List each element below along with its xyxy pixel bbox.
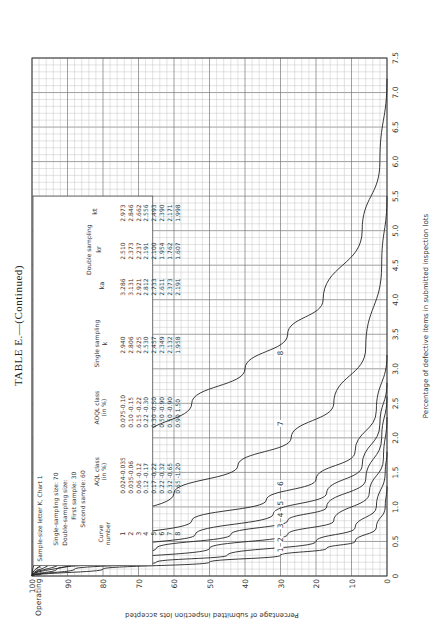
row-kr: 1.607 xyxy=(174,242,181,259)
row-aoql: 0.075-0.10 xyxy=(119,395,126,428)
row-kr: 1.954 xyxy=(158,242,165,259)
row-k: 2.625 xyxy=(135,336,142,353)
curve-label: 6 xyxy=(276,481,285,486)
info-text: number xyxy=(104,521,111,545)
row-kt: 2.171 xyxy=(166,204,173,221)
info-text: kt xyxy=(91,208,99,215)
row-kt: 2.662 xyxy=(135,204,142,221)
y-tick-label: 80 xyxy=(99,579,108,589)
row-aql: 0.024-0.035 xyxy=(119,457,126,494)
row-curve-number: 4 xyxy=(142,532,150,536)
row-ka: 2.611 xyxy=(158,278,165,295)
row-aoql: 0.90 1.50 xyxy=(174,399,181,428)
y-tick-label: 70 xyxy=(135,579,144,589)
row-k: 2.806 xyxy=(127,336,134,353)
row-kr: 2.191 xyxy=(142,242,149,259)
x-tick-label: 5.5 xyxy=(391,190,400,202)
info-text: Curve xyxy=(97,524,104,542)
row-ka: 2.191 xyxy=(174,278,181,295)
info-text: (in %) xyxy=(100,463,107,481)
row-k: 1.958 xyxy=(174,336,181,353)
x-tick-label: 1.5 xyxy=(391,466,400,478)
y-tick-label: 60 xyxy=(170,579,179,589)
x-tick-label: 0 xyxy=(391,573,400,578)
y-tick-label: 30 xyxy=(277,579,286,589)
info-text: AOQL class xyxy=(93,391,100,425)
y-tick-label: 0 xyxy=(383,579,392,584)
y-tick-label: 20 xyxy=(312,579,321,589)
row-kt: 2.846 xyxy=(127,204,134,221)
row-aql: 0.06 -0.12 xyxy=(135,463,142,494)
curve-label: 3 xyxy=(276,523,285,528)
row-k: 2.132 xyxy=(166,336,173,353)
x-tick-label: 7.5 xyxy=(391,52,400,64)
row-kt: 1.998 xyxy=(174,204,181,221)
y-tick-label: 40 xyxy=(241,579,250,589)
row-curve-number: 7 xyxy=(166,532,174,536)
row-aoql: 0.30 -0.50 xyxy=(150,397,157,428)
row-k: 2.940 xyxy=(119,336,126,353)
row-aql: 0.12 -0.17 xyxy=(142,463,149,494)
curve-label: 7 xyxy=(276,421,285,426)
x-tick-label: 5.0 xyxy=(391,224,400,236)
y-axis-label: Percentage of submitted inspection lots … xyxy=(125,611,299,619)
x-tick-label: 4.5 xyxy=(391,259,400,271)
row-aql: 0.035-0.06 xyxy=(127,461,134,494)
curve-label: 5 xyxy=(276,500,285,505)
row-kt: 2.493 xyxy=(150,204,157,221)
row-kt: 2.556 xyxy=(142,204,149,221)
info-text: ka xyxy=(98,282,106,290)
row-ka: 2.373 xyxy=(166,278,173,295)
info-text: Single sampling xyxy=(93,320,101,368)
row-curve-number: 1 xyxy=(119,532,127,536)
row-kr: 2.510 xyxy=(119,242,126,259)
row-aoql: 0.22 -0.30 xyxy=(142,397,149,428)
table-title: TABLE E.—(Continued) xyxy=(12,265,25,386)
row-aql: 0.17 -0.22 xyxy=(150,463,157,494)
row-ka: 2.921 xyxy=(135,278,142,295)
row-k: 2.457 xyxy=(150,336,157,353)
curve-label: 8 xyxy=(276,350,285,355)
y-tick-label: 100 xyxy=(28,579,37,594)
curve-label: 4 xyxy=(276,512,285,517)
y-tick-label: 10 xyxy=(348,579,357,589)
curve-label: 2 xyxy=(276,537,285,542)
row-curve-number: 2 xyxy=(127,532,135,536)
double-sampling-size: Double-sampling size: xyxy=(61,479,69,545)
x-tick-label: 7.0 xyxy=(391,86,400,98)
x-tick-label: 4.0 xyxy=(391,294,400,306)
x-tick-label: 2.0 xyxy=(391,432,400,444)
row-kr: 2.373 xyxy=(127,242,134,259)
row-kr: 2.237 xyxy=(135,242,142,259)
x-tick-label: 2.5 xyxy=(391,397,400,409)
row-kt: 2.390 xyxy=(158,204,165,221)
single-sampling-size: Single-sampling size: 70 xyxy=(52,472,60,545)
x-tick-label: 1.0 xyxy=(391,501,400,513)
oc-chart: TABLE E.—(Continued) Operating Character… xyxy=(0,0,439,621)
row-curve-number: 6 xyxy=(158,532,166,536)
row-curve-number: 5 xyxy=(150,532,158,536)
info-text: kr xyxy=(95,246,103,253)
x-tick-label: 3.5 xyxy=(391,328,400,340)
info-text: k xyxy=(101,342,109,346)
info-text: (in %) xyxy=(100,399,107,417)
y-tick-label: 50 xyxy=(206,579,215,589)
row-aoql: 0.15 -0.22 xyxy=(135,397,142,428)
row-aoql: 0.50 -0.90 xyxy=(166,397,173,428)
row-kt: 2.973 xyxy=(119,204,126,221)
first-sample: First sample: 30 xyxy=(70,472,78,520)
row-kr: 2.100 xyxy=(150,242,157,259)
sample-size-letter: Sample-size letter K, Chart 1 xyxy=(36,475,44,561)
row-ka: 2.733 xyxy=(150,278,157,295)
row-kr: 1.762 xyxy=(166,242,173,259)
x-tick-label: 0.5 xyxy=(391,535,400,547)
x-tick-label: 6.0 xyxy=(391,155,400,167)
x-tick-label: 3.0 xyxy=(391,363,400,375)
row-k: 2.530 xyxy=(142,336,149,353)
y-tick-label: 90 xyxy=(64,579,73,589)
curve-label: 1 xyxy=(276,547,285,552)
row-ka: 3.286 xyxy=(119,278,126,295)
row-aql: 0.65 -1.20 xyxy=(174,463,181,494)
second-sample: Second sample: 60 xyxy=(79,470,87,528)
x-axis-label: Percentage of defective items in submitt… xyxy=(422,214,430,419)
